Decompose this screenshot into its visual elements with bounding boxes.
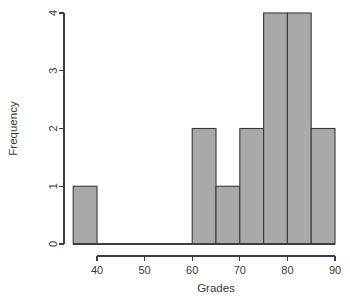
x-tick-labels: 405060708090 [91,264,341,276]
y-tick-label: 1 [47,183,59,189]
x-axis [97,256,335,261]
histogram-bar [240,129,264,245]
histogram-bar [192,129,216,245]
x-tick-label: 50 [138,264,150,276]
x-tick-label: 60 [186,264,198,276]
histogram-bar [73,186,97,244]
histogram-bar [216,186,240,244]
histogram-bar [264,13,288,244]
y-tick-label: 0 [47,241,59,247]
histogram-bar [311,129,335,245]
x-tick-label: 40 [91,264,103,276]
x-tick-label: 80 [281,264,293,276]
y-tick-label: 3 [47,68,59,74]
x-tick-label: 70 [234,264,246,276]
histogram-bar [287,13,311,244]
y-tick-label: 4 [47,10,59,16]
y-axis-title: Frequency [7,101,19,156]
histogram-plot: 01234 405060708090 Grades Frequency [0,0,350,297]
y-tick-labels: 01234 [47,10,59,247]
y-tick-label: 2 [47,125,59,131]
x-axis-title: Grades [197,282,235,294]
y-axis [59,13,64,244]
bars-group [73,13,335,244]
x-tick-label: 90 [329,264,341,276]
chart-canvas: 01234 405060708090 Grades Frequency [0,0,350,297]
